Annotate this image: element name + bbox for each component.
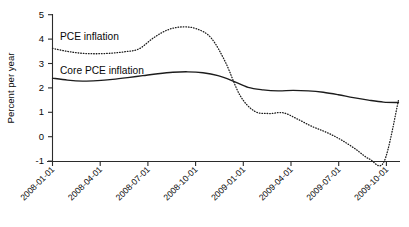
xtick-label-2009-07-01: 2009-07-01 — [304, 164, 342, 202]
y-axis-title: Percent per year — [5, 52, 16, 124]
xtick-label-2008-10-01: 2008-10-01 — [161, 164, 199, 202]
xtick-label-2009-10-01: 2009-10-01 — [352, 164, 390, 202]
ytick-label-5: 5 — [39, 9, 44, 20]
ytick-label-1: 1 — [39, 106, 44, 117]
ytick-label-3: 3 — [39, 58, 44, 69]
ytick-label-2: 2 — [39, 82, 44, 93]
series-label-core-pce-inflation: Core PCE inflation — [60, 65, 144, 76]
series-label-pce-inflation: PCE inflation — [60, 31, 119, 42]
ytick-label-0: 0 — [39, 131, 44, 142]
xtick-label-2009-01-01: 2009-01-01 — [209, 164, 247, 202]
xtick-label-2008-04-01: 2008-04-01 — [66, 164, 104, 202]
ytick-label-minus-1: -1 — [36, 155, 44, 166]
series-line-core-pce-inflation — [53, 72, 399, 103]
xtick-label-2008-01-01: 2008-01-01 — [18, 164, 56, 202]
xtick-label-2008-07-01: 2008-07-01 — [114, 164, 152, 202]
chart-plot-area: 5 4 3 2 1 0 -1 Percent per year — [0, 0, 409, 227]
y-axis-ticks: 5 4 3 2 1 0 -1 — [36, 9, 53, 166]
pce-inflation-chart: 5 4 3 2 1 0 -1 Percent per year — [0, 0, 409, 227]
xtick-label-2009-04-01: 2009-04-01 — [257, 164, 295, 202]
ytick-label-4: 4 — [39, 33, 44, 44]
x-axis-tick-labels: 2008-01-01 2008-04-01 2008-07-01 2008-10… — [18, 164, 390, 202]
